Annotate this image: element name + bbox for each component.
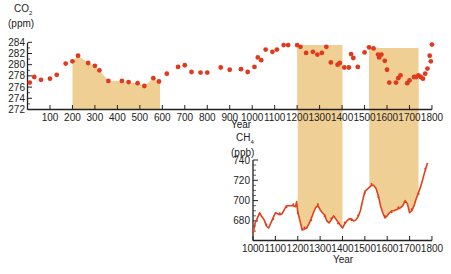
co2-point — [176, 65, 181, 70]
ch4-point — [259, 213, 261, 215]
co2-point — [371, 46, 376, 51]
ch4-point — [357, 214, 359, 216]
co2-xtick: 200 — [64, 112, 81, 123]
ch4-shaded-intervals — [298, 45, 419, 230]
co2-point — [398, 73, 403, 78]
ch4-ytick: 700 — [233, 195, 250, 206]
co2-point — [428, 59, 433, 64]
co2-xtick: 500 — [132, 112, 149, 123]
co2-point — [286, 43, 291, 48]
ch4-xtick: 1600 — [376, 243, 399, 254]
co2-point — [425, 66, 430, 71]
co2-point — [54, 72, 59, 77]
ch4-point — [337, 222, 339, 224]
co2-point — [337, 61, 342, 66]
co2-point — [97, 68, 102, 73]
co2-point — [421, 76, 426, 81]
co2-point — [385, 67, 390, 72]
co2-point — [245, 70, 250, 75]
co2-ytick: 276 — [8, 82, 25, 93]
co2-xtick: 100 — [42, 112, 59, 123]
co2-point — [270, 49, 275, 54]
co2-point — [342, 65, 347, 70]
co2-point — [70, 59, 75, 64]
co2-xtick: 700 — [176, 112, 193, 123]
co2-shaded-intervals — [72, 45, 418, 109]
co2-ylabel: CO2 — [14, 3, 33, 16]
ch4-point — [391, 211, 393, 213]
co2-point — [324, 44, 329, 49]
ch4-xtick: 1300 — [309, 243, 332, 254]
ch4-ytick: 720 — [233, 175, 250, 186]
co2-point — [218, 65, 223, 70]
ch4-point — [350, 219, 352, 221]
co2-point — [119, 79, 124, 84]
co2-point — [142, 84, 147, 89]
co2-point — [76, 53, 81, 58]
co2-point — [48, 76, 53, 81]
co2-ytick: 274 — [8, 93, 25, 104]
co2-ytick: 278 — [8, 70, 25, 81]
co2-point — [430, 42, 435, 47]
co2-point — [106, 79, 111, 84]
co2-point — [351, 56, 356, 61]
ch4-ylabel-unit: (ppb) — [231, 147, 254, 158]
ch4-xtick: 1400 — [331, 243, 354, 254]
ch4-point — [272, 218, 274, 220]
co2-point — [315, 52, 320, 57]
ch4-xtick: 1700 — [398, 243, 421, 254]
co2-point — [32, 75, 37, 80]
co2-point — [367, 45, 372, 50]
co2-point — [39, 77, 44, 82]
ch4-ylabel: CH4 — [236, 132, 254, 145]
co2-shade-0 — [72, 56, 160, 110]
co2-xtick: 600 — [154, 112, 171, 123]
co2-point — [63, 61, 68, 66]
co2-point — [379, 52, 384, 57]
co2-point — [346, 65, 351, 70]
ch4-point — [371, 183, 373, 185]
ch4-point — [310, 219, 312, 221]
ch4-point — [364, 192, 366, 194]
ch4-point — [330, 217, 332, 219]
ch4-xtick: 1000 — [242, 243, 265, 254]
co2-point — [227, 67, 232, 72]
co2-point — [394, 80, 399, 85]
ch4-xtick: 1100 — [265, 243, 287, 254]
ch4-point — [344, 221, 346, 223]
ch4-point — [303, 227, 305, 229]
ch4-point — [297, 212, 299, 214]
co2-point — [182, 63, 187, 68]
ch4-point — [424, 168, 426, 170]
co2-xtick: 1300 — [308, 112, 331, 123]
co2-ylabel-unit: (ppm) — [8, 18, 34, 29]
co2-point — [328, 60, 333, 65]
ch4-xtick: 1800 — [421, 243, 444, 254]
co2-point — [362, 50, 367, 55]
co2-ytick: 282 — [8, 48, 25, 59]
co2-xtick: 1500 — [353, 112, 376, 123]
co2-point — [263, 47, 268, 52]
ch4-point — [377, 196, 379, 198]
co2-point — [407, 78, 412, 83]
ch4-point — [286, 206, 288, 208]
co2-ch4-chart: 2722742762782802822841002003004005006007… — [0, 0, 451, 274]
ch4-ytick: 680 — [233, 215, 250, 226]
co2-point — [281, 43, 286, 48]
co2-point — [252, 65, 257, 70]
co2-xtick: 1100 — [264, 112, 286, 123]
ch4-xlabel: Year — [333, 254, 354, 265]
co2-point — [387, 80, 392, 85]
co2-xtick: 1700 — [398, 112, 421, 123]
co2-point — [239, 67, 244, 72]
ch4-xtick: 1500 — [354, 243, 377, 254]
co2-point — [93, 63, 98, 68]
co2-point — [423, 71, 428, 76]
co2-xlabel: Year — [231, 119, 252, 130]
co2-xtick: 1800 — [421, 112, 444, 123]
co2-point — [298, 44, 303, 49]
co2-point — [189, 70, 194, 75]
co2-point — [164, 71, 169, 76]
co2-ytick: 272 — [8, 104, 25, 115]
co2-xtick: 1200 — [286, 112, 309, 123]
